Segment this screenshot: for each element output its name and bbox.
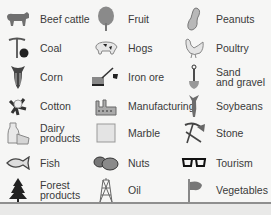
legend-label: Fish	[40, 158, 60, 169]
legend-item-tourism: Tourism	[178, 149, 253, 177]
legend-item-stone: Stone	[178, 119, 243, 147]
legend-label: Forest products	[40, 180, 80, 201]
legend-item-cotton: Cotton	[2, 92, 71, 120]
poultry-icon	[178, 34, 210, 62]
coal-pick-icon	[2, 34, 34, 62]
legend-label: Oil	[128, 185, 141, 196]
legend-label: Cotton	[40, 101, 71, 112]
legend-item-hogs: Hogs	[90, 34, 153, 62]
corn-icon	[2, 63, 34, 91]
legend-item-coal: Coal	[2, 34, 62, 62]
pick-shovel-icon	[178, 119, 210, 147]
legend-item-poultry: Poultry	[178, 34, 249, 62]
nuts-icon	[90, 149, 122, 177]
tree-icon	[2, 176, 34, 204]
legend-label: Vegetables	[216, 185, 268, 196]
legend-label: Peanuts	[216, 14, 255, 25]
legend-item-oil: Oil	[90, 176, 141, 204]
legend-label: Beef cattle	[40, 14, 90, 25]
legend-item-corn: Corn	[2, 63, 63, 91]
iron-ore-icon	[90, 63, 122, 91]
hog-icon	[90, 34, 122, 62]
legend-label: Sand and gravel	[216, 67, 265, 88]
factory-icon	[90, 92, 122, 120]
legend-item-iron-ore: Iron ore	[90, 63, 164, 91]
glasses-icon	[178, 149, 210, 177]
legend-label: Poultry	[216, 43, 249, 54]
legend-label: Hogs	[128, 43, 153, 54]
legend-item-fish: Fish	[2, 149, 60, 177]
legend-item-sand-gravel: Sand and gravel	[178, 63, 265, 91]
fruit-tree-icon	[90, 5, 122, 33]
legend-label: Coal	[40, 43, 62, 54]
legend-item-forest-products: Forest products	[2, 176, 80, 204]
shovel-icon	[178, 63, 210, 91]
peanut-icon	[178, 5, 210, 33]
soybean-icon	[178, 92, 210, 120]
map-legend: Beef cattle Coal Corn Cotton Dairy produ…	[0, 0, 271, 202]
legend-item-fruit: Fruit	[90, 5, 149, 33]
legend-label: Soybeans	[216, 101, 263, 112]
legend-label: Tourism	[216, 158, 253, 169]
legend-label: Fruit	[128, 14, 149, 25]
legend-item-vegetables: Vegetables	[178, 176, 268, 204]
vegetables-icon	[178, 176, 210, 204]
fish-icon	[2, 149, 34, 177]
legend-item-marble: Marble	[90, 119, 160, 147]
oil-derrick-icon	[90, 176, 122, 204]
legend-label: Marble	[128, 128, 160, 139]
legend-item-peanuts: Peanuts	[178, 5, 255, 33]
cotton-icon	[2, 92, 34, 120]
legend-item-nuts: Nuts	[90, 149, 150, 177]
legend-label: Nuts	[128, 158, 150, 169]
cattle-icon	[2, 5, 34, 33]
legend-label: Stone	[216, 128, 243, 139]
legend-label: Corn	[40, 72, 63, 83]
legend-item-beef-cattle: Beef cattle	[2, 5, 90, 33]
dairy-icon	[2, 119, 34, 147]
legend-item-dairy: Dairy products	[2, 119, 80, 147]
legend-label: Iron ore	[128, 72, 164, 83]
legend-item-soybeans: Soybeans	[178, 92, 263, 120]
footer-strip	[0, 204, 271, 215]
legend-label: Dairy products	[40, 123, 80, 144]
marble-icon	[90, 119, 122, 147]
